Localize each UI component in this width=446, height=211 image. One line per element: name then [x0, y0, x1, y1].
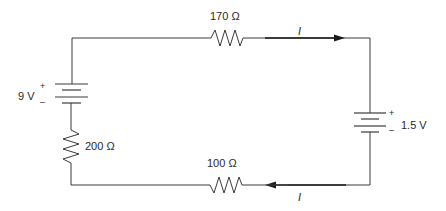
current-bottom-label: I [298, 192, 301, 203]
battery-9v-negative-sign: – [40, 98, 45, 107]
battery-1-5v-negative-sign: – [389, 126, 394, 135]
resistor-100-ohm [205, 177, 246, 193]
wire-bottom-right [288, 132, 370, 185]
circuit-diagram: 170 Ω I 100 Ω I 200 Ω 9 V + – 1.5 V + – [0, 0, 446, 211]
resistor-200-ohm [63, 125, 79, 168]
battery-1-5v-positive-sign: + [389, 109, 394, 118]
wire-top-right [247, 38, 370, 113]
circuit-schematic [0, 0, 446, 211]
resistor-100-label: 100 Ω [207, 158, 237, 169]
arrowhead-right-icon [334, 35, 345, 42]
wire-top-left [72, 38, 206, 84]
current-top-label: I [298, 26, 301, 37]
resistor-200-label: 200 Ω [85, 141, 115, 152]
resistor-170-label: 170 Ω [210, 11, 240, 22]
resistor-170-ohm [206, 30, 247, 46]
battery-1-5v-label: 1.5 V [401, 120, 427, 131]
battery-9v-label: 9 V [18, 91, 35, 102]
battery-9v-positive-sign: + [40, 82, 45, 91]
wire-bottom-left [71, 168, 205, 185]
